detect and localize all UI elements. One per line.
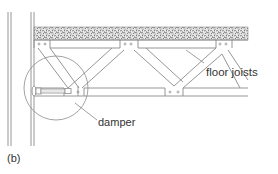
outer-wall (8, 12, 11, 146)
damper (32, 86, 78, 96)
leader-lines (75, 50, 204, 120)
diagram-canvas (0, 0, 278, 174)
damper-label: damper (98, 117, 135, 128)
floor-joists-label: floor joists (206, 67, 258, 79)
concrete-slab (34, 27, 248, 40)
inner-wall (31, 12, 34, 146)
panel-label: (b) (7, 153, 20, 164)
